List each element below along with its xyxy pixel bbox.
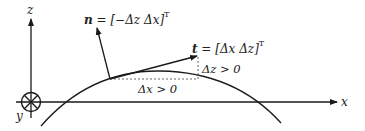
tangent-transpose: T (259, 39, 265, 48)
surface-curve (41, 71, 281, 126)
normal-vector-label: n = [−Δz Δx]T (84, 10, 170, 27)
tangent-expression: [Δx Δz] (215, 42, 259, 56)
y-axis-label: y (15, 109, 23, 123)
normal-vector-arrow (97, 28, 110, 79)
x-axis-label: x (341, 95, 348, 109)
surface-normal-diagram: z x y n = [−Δz Δx]T t = [Δx Δz]T Δz > 0 … (0, 0, 365, 131)
tangent-equals: = (198, 42, 216, 56)
normal-symbol: n (84, 13, 93, 27)
tangent-vector-arrow (110, 56, 197, 79)
normal-equals: = (93, 13, 111, 27)
z-axis-label: z (26, 3, 34, 17)
dx-label: Δx > 0 (137, 82, 177, 96)
normal-transpose: T (164, 10, 170, 19)
normal-expression: [−Δz Δx] (110, 13, 164, 27)
dz-label: Δz > 0 (201, 62, 241, 76)
tangent-vector-label: t = [Δx Δz]T (192, 39, 265, 56)
